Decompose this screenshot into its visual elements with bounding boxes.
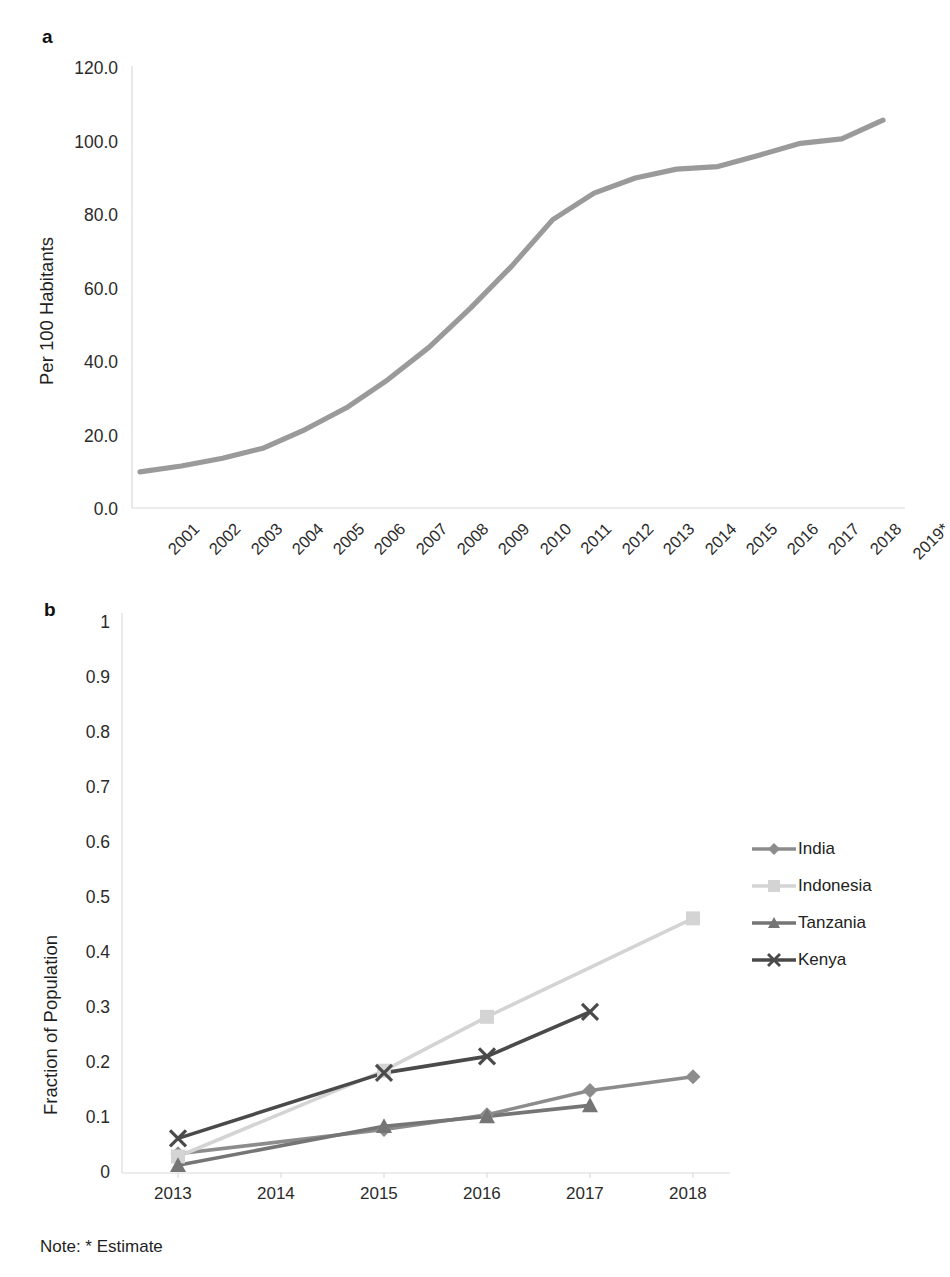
- figure-note: Note: * Estimate: [40, 1237, 163, 1257]
- panel-b-xtick-2017: 2017: [566, 1185, 604, 1202]
- x-marker: [752, 951, 796, 969]
- panel-a-line-mobile-subscriptions: [140, 120, 883, 472]
- panel-b-xtick-2013: 2013: [154, 1185, 192, 1202]
- legend-label-india: India: [798, 839, 835, 859]
- legend-label-tanzania: Tanzania: [798, 913, 866, 933]
- legend-item-tanzania[interactable]: Tanzania: [752, 904, 917, 941]
- panel-b-xtick-2018: 2018: [669, 1185, 707, 1202]
- diamond-marker: [752, 840, 796, 858]
- legend-label-kenya: Kenya: [798, 950, 846, 970]
- panel-b-point-indonesia-2018: [686, 911, 700, 925]
- panel-b-xtick-2016: 2016: [463, 1185, 501, 1202]
- panel-b-xtick-2014: 2014: [257, 1185, 295, 1202]
- panel-b-point-kenya-2017: [582, 1004, 598, 1020]
- panel-b-point-indonesia-2016: [480, 1010, 494, 1024]
- triangle-marker: [752, 914, 796, 932]
- legend-item-kenya[interactable]: Kenya: [752, 941, 917, 978]
- legend-item-india[interactable]: India: [752, 830, 917, 867]
- panel-a: a Per 100 Habitants 120.0 100.0 80.0 60.…: [0, 0, 920, 595]
- legend-item-indonesia[interactable]: Indonesia: [752, 867, 917, 904]
- panel-b-tick-marks: [178, 1173, 693, 1178]
- square-marker: [752, 877, 796, 895]
- chart-legend: IndiaIndonesiaTanzaniaKenya: [752, 830, 917, 978]
- panel-b-point-india-2018: [686, 1069, 701, 1084]
- panel-a-plot-area: [0, 0, 920, 595]
- panel-b-xtick-2015: 2015: [360, 1185, 398, 1202]
- panel-b-point-india-2017: [583, 1083, 598, 1098]
- legend-label-indonesia: Indonesia: [798, 876, 872, 896]
- panel-b-series-group: [170, 911, 701, 1172]
- panel-a-series-group: [140, 120, 883, 472]
